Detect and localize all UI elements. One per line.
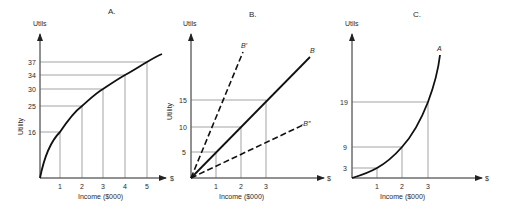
chart-c-x-label: Income ($000) [380, 193, 425, 201]
chart-a-title: A. [108, 7, 116, 16]
figure: A. Utils $ Utility Income ($000) 1 2 3 4… [0, 0, 507, 212]
chart-c-drop-lines [352, 102, 428, 178]
chart-b: B. Utils $ Utility Income ($000) B B′ -B… [166, 10, 331, 201]
chart-b-x-tick: 1 [214, 183, 218, 190]
chart-b-x-axis-end-label: $ [327, 175, 331, 182]
chart-b-line-b-double-prime [191, 125, 303, 178]
chart-a-x-tick: 4 [123, 183, 127, 190]
chart-b-y-tick: 15 [179, 97, 187, 104]
chart-c-utility-curve-a [352, 55, 440, 178]
chart-b-x-label: Income ($000) [219, 193, 264, 201]
chart-c-x-axis-end-label: $ [485, 175, 489, 182]
chart-b-y-label: Utility [166, 102, 174, 120]
chart-a-y-label: Utility [17, 117, 25, 135]
chart-b-x-tick: 3 [264, 183, 268, 190]
chart-a-y-tick: 30 [28, 86, 36, 93]
chart-a-x-label: Income ($000) [78, 193, 123, 201]
chart-a-x-tick: 3 [101, 183, 105, 190]
chart-a: A. Utils $ Utility Income ($000) 1 2 3 4… [17, 7, 174, 201]
chart-c-y-tick: 9 [343, 144, 347, 151]
chart-b-line-b-prime-label: B′ [241, 42, 248, 49]
chart-b-line-b-label: B [310, 47, 315, 54]
chart-c-x-tick: 1 [375, 183, 379, 190]
chart-b-line-b-double-prime-label: -B″ [301, 120, 311, 127]
chart-a-drop-lines [40, 62, 147, 178]
chart-b-x-tick: 2 [239, 183, 243, 190]
chart-c-y-tick: 3 [343, 165, 347, 172]
chart-a-x-tick: 2 [80, 183, 84, 190]
chart-b-y-tick: 10 [179, 124, 187, 131]
chart-b-title: B. [249, 10, 257, 19]
chart-a-y-tick: 25 [28, 103, 36, 110]
chart-a-y-tick: 16 [28, 129, 36, 136]
chart-b-y-tick: 5 [182, 149, 186, 156]
chart-c-y-tick: 19 [340, 99, 348, 106]
chart-b-line-b-prime [191, 52, 243, 178]
chart-b-y-axis-top-label: Utils [183, 20, 197, 27]
chart-a-x-tick: 1 [58, 183, 62, 190]
chart-a-y-axis-top-label: Utils [33, 20, 47, 27]
chart-c-title: C. [413, 10, 421, 19]
chart-b-line-b [191, 57, 310, 178]
chart-c: C. Utils $ Income ($000) A 1 2 3 3 9 19 [340, 10, 489, 201]
chart-a-y-tick: 37 [28, 59, 36, 66]
chart-c-curve-a-label: A [436, 45, 442, 52]
chart-a-utility-curve [40, 54, 162, 178]
chart-a-y-tick: 34 [28, 72, 36, 79]
chart-a-x-tick: 5 [145, 183, 149, 190]
chart-c-x-tick: 3 [426, 183, 430, 190]
chart-a-x-axis-end-label: $ [170, 175, 174, 182]
chart-c-y-axis-top-label: Utils [345, 20, 359, 27]
chart-c-x-tick: 2 [400, 183, 404, 190]
